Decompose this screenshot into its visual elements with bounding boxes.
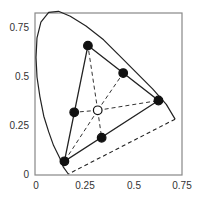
plot-frame <box>35 13 182 175</box>
dashed-line-red <box>98 101 159 111</box>
y-tick-0.25: 0.25 <box>10 120 30 131</box>
dashed-line-yellow <box>98 73 123 110</box>
x-tick-0.75: 0.75 <box>172 180 192 191</box>
connector-lines <box>64 46 158 162</box>
point-cyan <box>70 108 79 117</box>
locus-curve <box>36 11 175 174</box>
dashed-line-green <box>88 46 98 111</box>
y-tick-0: 0 <box>23 169 29 180</box>
point-magenta <box>97 133 106 142</box>
spectral-locus <box>36 11 175 174</box>
point-blue <box>60 157 69 166</box>
gamut-triangle <box>64 46 158 162</box>
y-tick-0.5: 0.5 <box>15 71 29 82</box>
x-tick-0: 0 <box>33 180 39 191</box>
point-green <box>84 41 93 50</box>
x-tick-0.5: 0.5 <box>127 180 141 191</box>
y-tick-0.75: 0.75 <box>10 22 30 33</box>
purple-line <box>68 119 175 174</box>
x-tick-0.25: 0.25 <box>75 180 95 191</box>
point-white <box>93 106 102 115</box>
chromaticity-chart: 0 0.25 0.5 0.75 0 0.25 0.5 0.75 <box>0 0 201 198</box>
point-yellow <box>119 69 128 78</box>
point-red <box>154 96 163 105</box>
